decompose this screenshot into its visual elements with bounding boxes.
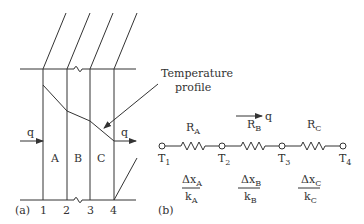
- composite-wall: [20, 13, 158, 203]
- perspective-line: [43, 13, 66, 69]
- heat-flow-out-label: q: [121, 126, 128, 139]
- resistor-a: [165, 142, 219, 150]
- fraction-den-a: kA: [185, 190, 198, 205]
- perspective-line: [114, 158, 137, 200]
- resistor-label-c: RC: [307, 118, 321, 133]
- perspective-line: [67, 13, 90, 69]
- temperature-profile-line: [43, 85, 114, 141]
- fraction-num-c: ΔxC: [301, 173, 321, 188]
- fraction-den-b: kB: [244, 190, 257, 205]
- top-boundary-line: [20, 67, 136, 72]
- layer-label-b: B: [74, 152, 82, 165]
- node-t3: [279, 143, 285, 149]
- resistor-label-a: RA: [186, 121, 200, 136]
- interface-label-4: 4: [110, 204, 117, 217]
- fraction-den-c: kC: [304, 190, 317, 205]
- annotation-profile: profile: [175, 81, 211, 94]
- interface-label-2: 2: [63, 204, 70, 217]
- interface-label-1: 1: [40, 204, 47, 217]
- composite-wall-diagram: q q A B C 1 2 3 4 (a) Temperature profil…: [0, 0, 364, 224]
- node-label-t3: T3: [278, 152, 290, 167]
- perspective-line: [90, 13, 113, 69]
- bottom-boundary-line: [20, 198, 136, 203]
- node-label-t2: T2: [218, 152, 230, 167]
- node-t4: [340, 143, 346, 149]
- resistor-label-b: RB: [247, 118, 261, 133]
- layer-label-a: A: [50, 152, 60, 165]
- heat-flow-in-label: q: [27, 126, 34, 139]
- resistor-c: [285, 142, 340, 150]
- interface-label-3: 3: [87, 204, 94, 217]
- node-label-t1: T1: [158, 152, 170, 167]
- node-label-t4: T4: [339, 152, 351, 167]
- resistor-b: [225, 142, 279, 150]
- node-t1: [159, 143, 165, 149]
- node-t2: [219, 143, 225, 149]
- annotation-temperature: Temperature: [161, 67, 233, 80]
- figure-a-label: (a): [15, 204, 30, 217]
- layer-label-c: C: [97, 152, 105, 165]
- perspective-line: [114, 13, 137, 69]
- circuit-heat-flow-label: q: [265, 110, 272, 123]
- annotation-leader-arrow: [104, 84, 158, 128]
- figure-b-label: (b): [158, 204, 174, 217]
- fraction-num-b: ΔxB: [241, 173, 261, 188]
- fraction-num-a: ΔxA: [182, 173, 202, 188]
